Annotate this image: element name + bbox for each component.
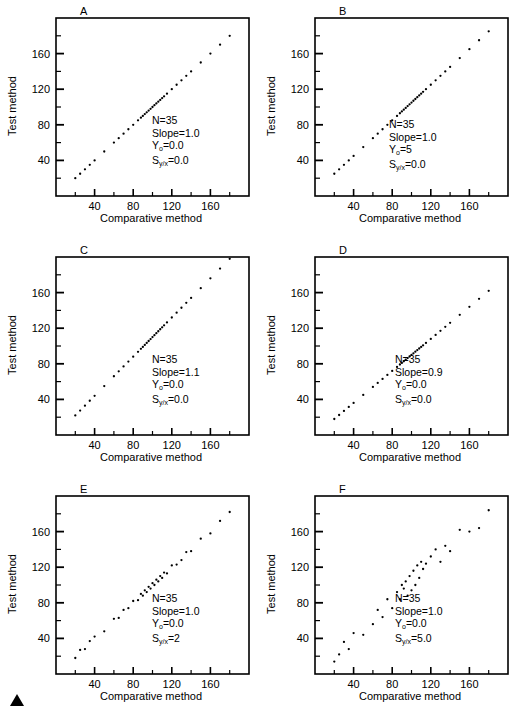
y-axis-title-D: Test method	[265, 295, 277, 395]
x-axis-title-C: Comparative method	[56, 451, 246, 463]
stats-block-C: N=35Slope=1.1Yo=0.0Sy/x=0.0	[152, 353, 200, 407]
svg-text:40: 40	[347, 678, 359, 690]
panel-E: E 40801201604080120160 Test method Compa…	[0, 478, 259, 717]
svg-text:160: 160	[291, 287, 309, 299]
panel-B: B 40801201604080120160 Test method Compa…	[259, 0, 518, 239]
stat-slope-F: Slope=1.0	[395, 605, 443, 618]
svg-text:160: 160	[460, 200, 478, 212]
stat-syx-D: Sy/x=0.0	[395, 393, 443, 408]
stats-block-F: N=35Slope=1.0Yo=0.0Sy/x=5.0	[395, 592, 443, 646]
x-axis-title-F: Comparative method	[315, 690, 505, 702]
stats-block-D: N=35Slope=0.9Yo=0.0Sy/x=0.0	[395, 353, 443, 407]
stat-syx-C: Sy/x=0.0	[152, 393, 200, 408]
svg-text:80: 80	[297, 597, 309, 609]
stats-block-E: N=35Slope=1.0Yo=0.0Sy/x=2	[152, 592, 200, 646]
panel-F: F 40801201604080120160 Test method Compa…	[259, 478, 518, 717]
svg-text:80: 80	[386, 678, 398, 690]
svg-text:120: 120	[163, 439, 181, 451]
svg-text:160: 160	[460, 439, 478, 451]
stats-block-B: N=35Slope=1.0Yo=5Sy/x=0.0	[389, 118, 437, 172]
svg-text:40: 40	[297, 632, 309, 644]
svg-text:40: 40	[38, 154, 50, 166]
svg-text:40: 40	[347, 439, 359, 451]
plot-area-A: 40801201604080120160	[0, 0, 259, 239]
plot-area-F: 40801201604080120160	[259, 478, 518, 717]
svg-text:80: 80	[38, 119, 50, 131]
stat-syx-F: Sy/x=5.0	[395, 632, 443, 647]
y-axis-title-A: Test method	[6, 56, 18, 156]
figure-panel-grid: A 40801201604080120160 Test method Compa…	[0, 0, 518, 718]
panel-D: D 40801201604080120160 Test method Compa…	[259, 239, 518, 478]
stat-n-F: N=35	[395, 592, 443, 605]
svg-text:80: 80	[297, 119, 309, 131]
panel-A: A 40801201604080120160 Test method Compa…	[0, 0, 259, 239]
svg-text:40: 40	[38, 632, 50, 644]
plot-area-C: 40801201604080120160	[0, 239, 259, 478]
svg-text:80: 80	[127, 439, 139, 451]
stat-n-D: N=35	[395, 353, 443, 366]
svg-text:120: 120	[291, 561, 309, 573]
stat-slope-B: Slope=1.0	[389, 131, 437, 144]
stat-intercept-D: Yo=0.0	[395, 378, 443, 393]
svg-text:80: 80	[38, 597, 50, 609]
svg-text:160: 160	[32, 287, 50, 299]
y-axis-title-B: Test method	[265, 56, 277, 156]
svg-text:120: 120	[32, 322, 50, 334]
stat-slope-E: Slope=1.0	[152, 605, 200, 618]
stat-n-A: N=35	[152, 114, 200, 127]
scatter-svg-F: 40801201604080120160	[259, 478, 518, 717]
svg-text:80: 80	[386, 200, 398, 212]
svg-text:40: 40	[88, 678, 100, 690]
x-axis-title-B: Comparative method	[315, 212, 505, 224]
svg-text:80: 80	[297, 358, 309, 370]
stat-syx-B: Sy/x=0.0	[389, 158, 437, 173]
svg-text:120: 120	[422, 678, 440, 690]
svg-text:160: 160	[32, 48, 50, 60]
svg-text:120: 120	[422, 439, 440, 451]
svg-text:40: 40	[297, 154, 309, 166]
stat-intercept-A: Yo=0.0	[152, 139, 200, 154]
svg-text:40: 40	[88, 200, 100, 212]
svg-text:160: 160	[291, 526, 309, 538]
stat-slope-D: Slope=0.9	[395, 366, 443, 379]
svg-text:120: 120	[32, 83, 50, 95]
svg-text:160: 160	[201, 439, 219, 451]
y-axis-title-F: Test method	[265, 534, 277, 634]
svg-text:80: 80	[127, 200, 139, 212]
svg-text:160: 160	[201, 678, 219, 690]
stat-syx-A: Sy/x=0.0	[152, 154, 200, 169]
x-axis-title-A: Comparative method	[56, 212, 246, 224]
svg-text:120: 120	[291, 83, 309, 95]
scatter-svg-D: 40801201604080120160	[259, 239, 518, 478]
stat-n-B: N=35	[389, 118, 437, 131]
svg-text:120: 120	[163, 200, 181, 212]
x-axis-title-D: Comparative method	[315, 451, 505, 463]
stat-n-E: N=35	[152, 592, 200, 605]
svg-text:80: 80	[386, 439, 398, 451]
svg-text:160: 160	[460, 678, 478, 690]
figure-marker-triangle-icon	[10, 694, 24, 706]
svg-text:160: 160	[291, 48, 309, 60]
svg-text:120: 120	[163, 678, 181, 690]
stat-n-C: N=35	[152, 353, 200, 366]
y-axis-title-C: Test method	[6, 295, 18, 395]
scatter-svg-C: 40801201604080120160	[0, 239, 259, 478]
svg-text:40: 40	[38, 393, 50, 405]
stat-slope-C: Slope=1.1	[152, 366, 200, 379]
svg-text:40: 40	[347, 200, 359, 212]
svg-text:120: 120	[291, 322, 309, 334]
stat-syx-E: Sy/x=2	[152, 632, 200, 647]
svg-text:40: 40	[297, 393, 309, 405]
x-axis-title-E: Comparative method	[56, 690, 246, 702]
plot-area-E: 40801201604080120160	[0, 478, 259, 717]
svg-text:40: 40	[88, 439, 100, 451]
scatter-svg-A: 40801201604080120160	[0, 0, 259, 239]
y-axis-title-E: Test method	[6, 534, 18, 634]
stat-intercept-E: Yo=0.0	[152, 617, 200, 632]
svg-text:120: 120	[32, 561, 50, 573]
svg-text:120: 120	[422, 200, 440, 212]
svg-text:160: 160	[32, 526, 50, 538]
stat-slope-A: Slope=1.0	[152, 127, 200, 140]
stat-intercept-F: Yo=0.0	[395, 617, 443, 632]
svg-text:80: 80	[127, 678, 139, 690]
